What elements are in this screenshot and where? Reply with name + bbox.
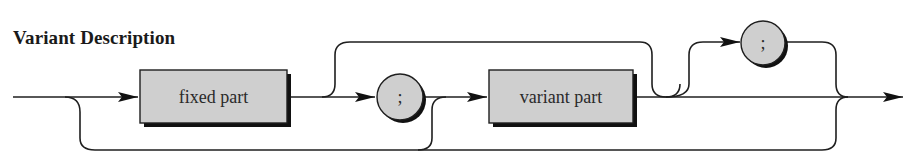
fixed-part-box: fixed part xyxy=(140,70,291,127)
variant-part-box: variant part xyxy=(489,70,637,127)
semicolon-2-label: ; xyxy=(760,33,765,53)
semicolon-circle-1: ; xyxy=(377,74,426,123)
semicolon-1-label: ; xyxy=(397,87,402,107)
fixed-part-label: fixed part xyxy=(179,87,248,107)
branch-to-trailing-semicolon xyxy=(666,42,740,97)
branch-from-trailing-semicolon xyxy=(786,42,848,97)
semicolon-circle-2: ; xyxy=(741,21,788,68)
variant-part-label: variant part xyxy=(520,87,602,107)
syntax-diagram: fixed part ; variant part ; xyxy=(0,0,903,154)
